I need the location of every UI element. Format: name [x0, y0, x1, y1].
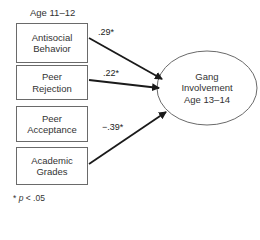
arrow-grades-to-gang: [89, 112, 166, 164]
footnote-text: < .05: [23, 193, 45, 203]
significance-footnote: * p < .05: [13, 193, 45, 203]
coefficient-grades: −.39*: [102, 122, 123, 132]
arrow-rejection-to-gang: [89, 80, 159, 88]
coefficient-antisocial: .29*: [98, 27, 114, 37]
outcome-label: Gang Involvement Age 13–14: [158, 52, 256, 124]
footnote-symbol: *: [13, 193, 16, 203]
coefficient-rejection: .22*: [103, 68, 119, 78]
arrow-antisocial-to-gang: [89, 38, 162, 79]
